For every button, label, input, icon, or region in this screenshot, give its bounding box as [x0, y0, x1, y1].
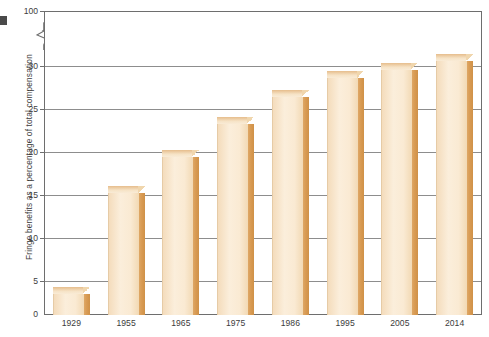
bar-front-face [327, 78, 358, 315]
x-tick-label-1955: 1955 [96, 318, 156, 328]
bar-top-bevel [411, 63, 418, 70]
bar-front-face [53, 294, 84, 315]
bar-top-bevel [138, 186, 145, 193]
bar-side-face [357, 78, 364, 315]
y-tick-label-100: 100 [6, 6, 38, 16]
bar-top-bevel [302, 90, 309, 97]
x-tick-label-1975: 1975 [206, 318, 266, 328]
bar-top-face [108, 186, 138, 193]
x-tick-label-1986: 1986 [260, 318, 320, 328]
y-tick-label-10: 10 [6, 233, 38, 243]
y-tick-label-5: 5 [6, 276, 38, 286]
bar-1955 [108, 186, 145, 315]
bar-side-face [466, 61, 473, 315]
bar-top-bevel [247, 117, 254, 124]
x-tick-label-1965: 1965 [151, 318, 211, 328]
bar-top-bevel [83, 287, 90, 294]
bar-top-face [272, 90, 302, 97]
y-tick-label-30: 30 [6, 61, 38, 71]
x-tick-label-1929: 1929 [41, 318, 101, 328]
x-tick-label-2014: 2014 [425, 318, 485, 328]
bar-side-face [83, 294, 90, 315]
bar-front-face [217, 124, 248, 315]
bar-front-face [436, 61, 467, 315]
bar-top-face [217, 117, 247, 124]
bar-side-face [302, 97, 309, 315]
bar-chart: Fringe benefits as a percentage of total… [0, 0, 489, 337]
bars-container [44, 11, 482, 315]
y-tick-label-20: 20 [6, 147, 38, 157]
bar-front-face [162, 157, 193, 315]
x-tick-label-1995: 1995 [315, 318, 375, 328]
bar-2014 [436, 54, 473, 315]
bar-top-face [436, 54, 466, 61]
bar-side-face [247, 124, 254, 315]
bar-top-face [381, 63, 411, 70]
y-tick-label-0: 0 [6, 309, 38, 319]
bar-1986 [272, 90, 309, 315]
bar-1965 [162, 150, 199, 315]
x-axis-labels: 19291955196519751986199520052014 [44, 318, 482, 334]
bar-top-bevel [466, 54, 473, 61]
bar-2005 [381, 63, 418, 315]
bar-top-bevel [192, 150, 199, 157]
bar-front-face [381, 70, 412, 315]
bar-side-face [192, 157, 199, 315]
bar-top-face [327, 71, 357, 78]
y-tick-label-25: 25 [6, 104, 38, 114]
corner-crop-mark [0, 16, 7, 25]
bar-side-face [138, 193, 145, 315]
bar-front-face [108, 193, 139, 315]
x-tick-label-2005: 2005 [370, 318, 430, 328]
bar-front-face [272, 97, 303, 315]
bar-side-face [411, 70, 418, 315]
bar-1929 [53, 287, 90, 315]
y-tick-label-15: 15 [6, 190, 38, 200]
bar-1975 [217, 117, 254, 315]
bar-top-face [53, 287, 83, 294]
bar-top-bevel [357, 71, 364, 78]
bar-1995 [327, 71, 364, 315]
bar-top-face [162, 150, 192, 157]
